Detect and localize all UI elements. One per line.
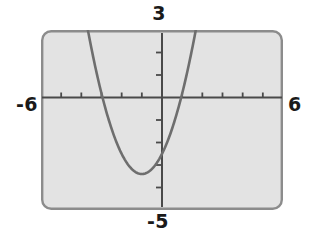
y-max-label: 3 [150, 4, 168, 23]
x-max-label: 6 [288, 95, 308, 114]
figure-canvas: 3 -6 6 -5 [0, 0, 316, 239]
calculator-screen [41, 30, 283, 210]
x-min-label: -6 [4, 95, 38, 114]
y-min-label: -5 [141, 212, 175, 231]
graph-plot [41, 30, 283, 210]
